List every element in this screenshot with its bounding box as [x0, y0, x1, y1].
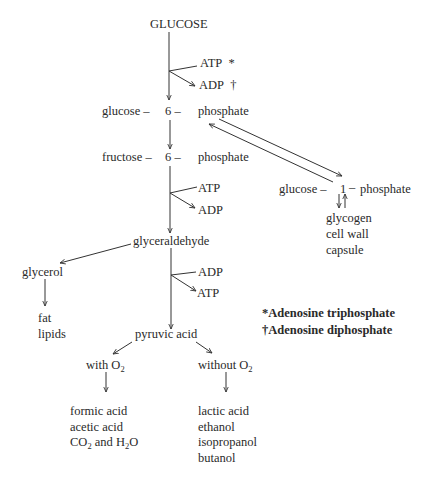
g6p-part-phosphate: phosphate — [198, 104, 249, 118]
f6p-part-fructose: fructose – — [102, 150, 152, 164]
arrow-g6p-to-g1p — [219, 119, 342, 176]
aerobic-product-acetic: acetic acid — [70, 420, 123, 434]
o-text: O — [129, 435, 138, 449]
line-atp-in-2 — [170, 187, 197, 193]
legend-atp: *Adenosine triphosphate — [262, 306, 395, 320]
arrow-glyceraldehyde-to-glycerol — [60, 244, 131, 263]
asterisk-mark: * — [228, 56, 234, 70]
line-atp-in — [169, 66, 197, 71]
polymer-cell-wall: cell wall — [326, 227, 369, 241]
co2-text: CO — [70, 435, 87, 449]
aerobic-sub: 2 — [120, 364, 124, 374]
product-lipids: lipids — [38, 327, 66, 341]
adp-text: ADP — [199, 78, 224, 92]
adp-output-2: ADP — [198, 203, 223, 217]
f6p-part-6: 6 – — [165, 150, 181, 164]
arrow-atp-out — [171, 275, 196, 291]
line-adp-in — [171, 272, 196, 275]
anaerobic-product-butanol: butanol — [198, 451, 236, 465]
pyruvic-acid-label: pyruvic acid — [135, 327, 197, 341]
arrow-pyruvic-to-anaerobic — [196, 342, 212, 353]
atp-output-3: ATP — [197, 286, 219, 300]
arrow-adp-out — [169, 71, 195, 86]
g6p-part-glucose: glucose – — [102, 104, 150, 118]
anaerobic-product-isopropanol: isopropanol — [198, 435, 257, 449]
aerobic-product-formic: formic acid — [70, 404, 127, 418]
legend-adp: †Adenosine diphosphate — [262, 323, 392, 337]
g1p-part-glucose: glucose – — [279, 182, 327, 196]
atp-text: ATP — [200, 56, 222, 70]
aerobic-label: with O2 — [86, 358, 125, 372]
arrow-adp-out-2 — [170, 193, 195, 208]
polymer-capsule: capsule — [326, 243, 363, 257]
f6p-part-phosphate: phosphate — [198, 150, 249, 164]
glucose-label: GLUCOSE — [150, 17, 208, 31]
g1p-part-dash: – — [349, 180, 355, 194]
polymer-glycogen: glycogen — [326, 211, 372, 225]
g1p-part-1: 1 — [340, 182, 346, 196]
anaerobic-product-lactic: lactic acid — [198, 404, 249, 418]
adp-input-3: ADP — [198, 265, 223, 279]
aerobic-text: with O — [86, 358, 120, 372]
aerobic-product-co2-h2o: CO2 and H2O — [70, 435, 138, 449]
g6p-part-6: 6 – — [165, 104, 181, 118]
product-fat: fat — [38, 311, 51, 325]
glyceraldehyde-label: glyceraldehyde — [133, 234, 209, 248]
and-h-text: and H — [92, 435, 125, 449]
anaerobic-sub: 2 — [248, 364, 252, 374]
anaerobic-product-ethanol: ethanol — [198, 420, 235, 434]
anaerobic-label: without O2 — [198, 358, 253, 372]
adp-output-1: ADP † — [199, 78, 237, 92]
atp-input-2: ATP — [198, 181, 220, 195]
dagger-mark: † — [230, 78, 236, 92]
glycerol-label: glycerol — [22, 265, 63, 279]
atp-input-1: ATP * — [200, 56, 235, 70]
anaerobic-text: without O — [198, 358, 248, 372]
g1p-part-phosphate: phosphate — [360, 182, 411, 196]
arrow-pyruvic-to-aerobic — [113, 342, 132, 354]
